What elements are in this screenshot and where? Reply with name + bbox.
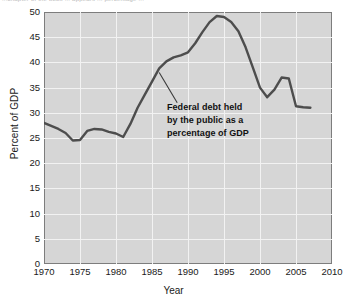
y-axis-tick-15: 15 bbox=[6, 183, 40, 193]
scanned-page-header-fragment: ...chapter of the book ... appears ... p… bbox=[0, 0, 347, 7]
y-axis-tick-5: 5 bbox=[6, 234, 40, 244]
y-axis-tick-50: 50 bbox=[6, 7, 40, 17]
y-axis-tick-10: 10 bbox=[6, 209, 40, 219]
annotation-line-3: percentage of GDP bbox=[167, 127, 289, 140]
y-axis-tick-40: 40 bbox=[6, 57, 40, 67]
annotation-line-2: by the public as a bbox=[167, 114, 289, 127]
chart-annotation-label: Federal debt held by the public as a per… bbox=[167, 101, 289, 139]
header-fragment-text: ...chapter of the book ... appears ... p… bbox=[2, 0, 144, 2]
x-axis-tick-1975: 1975 bbox=[60, 267, 100, 277]
x-axis-tick-2010: 2010 bbox=[312, 267, 347, 277]
y-axis-tick-45: 45 bbox=[6, 32, 40, 42]
x-axis-tick-1980: 1980 bbox=[96, 267, 136, 277]
x-axis-title: Year bbox=[0, 285, 347, 296]
x-axis-tick-1970: 1970 bbox=[24, 267, 64, 277]
x-axis-tick-1985: 1985 bbox=[132, 267, 172, 277]
figure-federal-debt-chart: ...chapter of the book ... appears ... p… bbox=[0, 0, 347, 303]
y-axis-title: Percent of GDP bbox=[9, 79, 20, 169]
x-axis-tick-1990: 1990 bbox=[168, 267, 208, 277]
x-axis-tick-labels: 197019751980198519901995200020052010 bbox=[0, 267, 347, 283]
x-axis-tick-2005: 2005 bbox=[276, 267, 316, 277]
annotation-line-1: Federal debt held bbox=[167, 101, 289, 114]
x-axis-tick-1995: 1995 bbox=[204, 267, 244, 277]
x-axis-tick-2000: 2000 bbox=[240, 267, 280, 277]
